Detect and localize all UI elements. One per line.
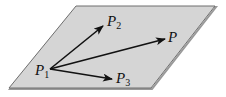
diagram-canvas: P1 P2 P P3 — [0, 0, 226, 97]
plane-diagram: P1 P2 P P3 — [0, 0, 226, 97]
label-p: P — [167, 29, 177, 45]
